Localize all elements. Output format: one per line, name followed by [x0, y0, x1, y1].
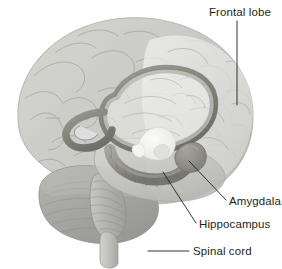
label-amygdala: Amygdala [229, 195, 281, 207]
brain-illustration: Frontal lobe Amygdala Hippocampus Spinal… [0, 0, 282, 269]
spinal-cord-shape [100, 232, 118, 268]
label-hippocampus: Hippocampus [199, 218, 271, 230]
brain-anatomy-figure: Frontal lobe Amygdala Hippocampus Spinal… [0, 0, 282, 269]
label-frontal-lobe: Frontal lobe [209, 6, 271, 18]
spinal-cord-region [100, 232, 118, 268]
label-spinal-cord: Spinal cord [193, 245, 252, 257]
